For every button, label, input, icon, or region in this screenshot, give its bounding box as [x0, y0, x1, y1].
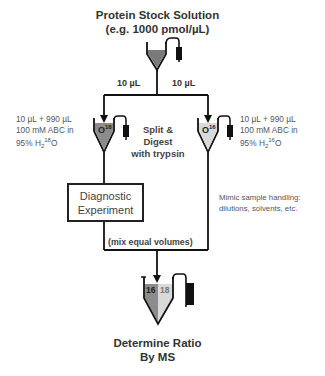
result-line2: By MS [60, 350, 255, 364]
diagnostic-experiment-box: Diagnostic Experiment [67, 183, 144, 222]
left-volume-label: 10 µL [117, 78, 140, 88]
o18-tube-label: O18 [98, 124, 112, 135]
o16-buffer-note: 10 µL + 990 µL 100 mM ABC in 95% H216O [240, 114, 298, 152]
stock-title: Protein Stock Solution (e.g. 1000 pmol/µ… [60, 8, 255, 36]
o16-tube-label: O16 [202, 124, 216, 135]
final-tube-label-18: 18 [160, 285, 169, 295]
stock-tube-icon [147, 38, 182, 70]
mix-equal-volumes-label: (mix equal volumes) [108, 237, 193, 247]
mimic-handling-note: Mimic sample handling: dilutions, solven… [219, 193, 300, 214]
result-title: Determine Ratio By MS [60, 336, 255, 364]
o18-buffer-note: 10 µL + 990 µL 100 mM ABC in 95% H218O [16, 114, 74, 152]
mixed-tube-icon [141, 274, 194, 324]
right-volume-label: 10 µL [172, 78, 195, 88]
stock-concentration: (e.g. 1000 pmol/µL) [60, 22, 255, 36]
stock-title-line1: Protein Stock Solution [60, 8, 255, 22]
flow-diagram [0, 0, 325, 376]
final-tube-label-16: 16 [146, 285, 155, 295]
result-line1: Determine Ratio [60, 336, 255, 350]
split-digest-label: Split & Digest with trypsin [118, 124, 198, 160]
